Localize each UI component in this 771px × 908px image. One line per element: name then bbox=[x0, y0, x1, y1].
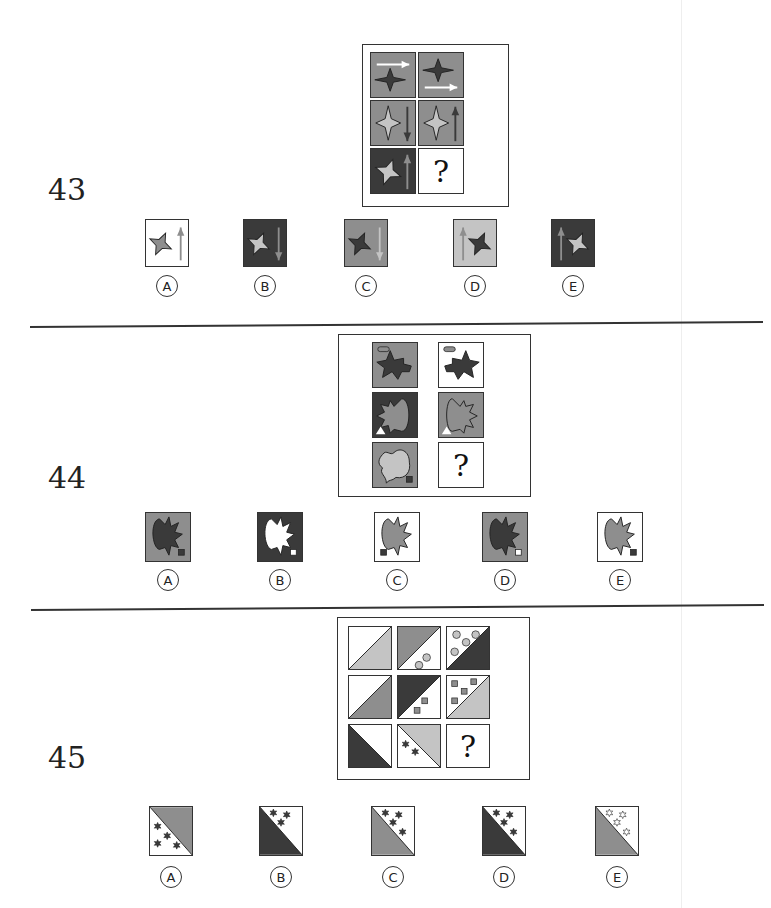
section-divider bbox=[30, 321, 763, 328]
square-dot-icon bbox=[461, 688, 467, 694]
puzzle-45-cell bbox=[348, 724, 392, 768]
option-c[interactable] bbox=[374, 512, 420, 562]
square-marker-icon bbox=[631, 549, 637, 555]
puzzle-43-cell: ? bbox=[418, 148, 464, 194]
four-point-star-icon bbox=[345, 228, 375, 260]
four-point-star-icon bbox=[464, 228, 496, 260]
irregular-shape bbox=[379, 450, 410, 483]
option-letter-d[interactable]: D bbox=[493, 866, 515, 888]
puzzle-43-cell bbox=[370, 148, 416, 194]
puzzle-45-cell bbox=[348, 626, 392, 670]
arrow-right-icon bbox=[425, 84, 458, 92]
option-e[interactable] bbox=[597, 512, 643, 562]
question-number-43: 43 bbox=[48, 172, 86, 207]
arrow-up-icon bbox=[177, 227, 184, 260]
puzzle-45-cell bbox=[397, 675, 441, 719]
square-dot-icon bbox=[452, 681, 458, 687]
triangle-marker-icon bbox=[376, 426, 386, 434]
arrow-up-icon bbox=[452, 107, 460, 141]
square-marker-icon bbox=[179, 549, 185, 555]
arrow-down-icon bbox=[404, 107, 412, 141]
option-b[interactable] bbox=[243, 219, 287, 267]
option-a[interactable] bbox=[145, 512, 191, 562]
puzzle-45-cell: ? bbox=[446, 724, 490, 768]
circle-dot-icon bbox=[462, 638, 470, 646]
circle-dot-icon bbox=[453, 631, 461, 639]
option-a[interactable] bbox=[149, 806, 193, 856]
puzzle-43-cell bbox=[370, 52, 416, 98]
page-edge-line bbox=[681, 0, 682, 908]
puzzle-45-cell bbox=[446, 626, 490, 670]
option-letter-b[interactable]: B bbox=[270, 866, 292, 888]
arrow-up-icon bbox=[404, 155, 412, 189]
option-e[interactable] bbox=[595, 806, 639, 856]
arrow-up-icon bbox=[459, 227, 466, 260]
four-point-star-icon bbox=[562, 228, 594, 260]
four-point-star-icon bbox=[424, 106, 449, 140]
option-e[interactable] bbox=[551, 219, 595, 267]
square-dot-icon bbox=[414, 708, 420, 714]
option-c[interactable] bbox=[344, 219, 388, 267]
option-letter-b[interactable]: B bbox=[269, 569, 291, 591]
option-letter-e[interactable]: E bbox=[606, 866, 628, 888]
puzzle-44-cell bbox=[438, 342, 484, 388]
puzzle-45-cell bbox=[397, 724, 441, 768]
irregular-shape bbox=[445, 351, 479, 380]
square-dot-icon bbox=[422, 698, 428, 704]
puzzle-43-cell bbox=[418, 100, 464, 146]
option-letter-b[interactable]: B bbox=[254, 275, 276, 297]
option-b[interactable] bbox=[259, 806, 303, 856]
four-point-star-icon bbox=[375, 68, 406, 91]
square-marker-icon bbox=[406, 476, 412, 482]
puzzle-45-cell bbox=[397, 626, 441, 670]
puzzle-44-frame bbox=[338, 334, 531, 497]
option-d[interactable] bbox=[453, 219, 497, 267]
arrow-down-icon bbox=[376, 227, 383, 260]
circle-dot-icon bbox=[423, 654, 431, 662]
circle-dot-icon bbox=[451, 648, 459, 656]
option-letter-d[interactable]: D bbox=[464, 275, 486, 297]
irregular-shape bbox=[447, 399, 478, 433]
square-dot-icon bbox=[452, 698, 458, 704]
arrow-up-icon bbox=[557, 227, 564, 260]
option-d[interactable] bbox=[482, 806, 526, 856]
puzzle-43-cell bbox=[418, 52, 464, 98]
question-number-44: 44 bbox=[48, 460, 86, 495]
irregular-shape bbox=[377, 399, 409, 433]
option-b[interactable] bbox=[257, 512, 303, 562]
four-point-star-icon bbox=[371, 155, 405, 189]
arrow-right-icon bbox=[377, 61, 410, 69]
pill-marker-icon bbox=[444, 347, 455, 352]
option-letter-e[interactable]: E bbox=[609, 569, 631, 591]
puzzle-44-cell bbox=[372, 442, 418, 488]
option-c[interactable] bbox=[371, 806, 415, 856]
puzzle-44-cell bbox=[438, 392, 484, 438]
option-letter-c[interactable]: C bbox=[382, 866, 404, 888]
question-mark: ? bbox=[433, 154, 449, 189]
option-letter-c[interactable]: C bbox=[386, 569, 408, 591]
option-letter-d[interactable]: D bbox=[494, 569, 516, 591]
square-marker-icon bbox=[516, 549, 522, 555]
puzzle-45-cell bbox=[348, 675, 392, 719]
option-a[interactable] bbox=[145, 219, 189, 267]
circle-dot-icon bbox=[415, 661, 423, 669]
question-mark: ? bbox=[453, 448, 469, 483]
option-d[interactable] bbox=[482, 512, 528, 562]
puzzle-45-cell bbox=[446, 675, 490, 719]
arrow-down-icon bbox=[275, 227, 282, 260]
irregular-shape bbox=[377, 351, 411, 380]
square-dot-icon bbox=[471, 679, 477, 685]
circle-dot-icon bbox=[472, 631, 480, 639]
option-letter-a[interactable]: A bbox=[160, 866, 182, 888]
four-point-star-icon bbox=[423, 59, 454, 82]
puzzle-43-cell bbox=[370, 100, 416, 146]
puzzle-44-cell: ? bbox=[438, 442, 484, 488]
four-point-star-icon bbox=[244, 228, 274, 260]
four-point-star-icon bbox=[146, 228, 176, 260]
option-letter-c[interactable]: C bbox=[355, 275, 377, 297]
option-letter-a[interactable]: A bbox=[157, 569, 179, 591]
option-letter-e[interactable]: E bbox=[562, 275, 584, 297]
option-letter-a[interactable]: A bbox=[156, 275, 178, 297]
four-point-star-icon bbox=[376, 106, 401, 140]
puzzle-44-cell bbox=[372, 342, 418, 388]
